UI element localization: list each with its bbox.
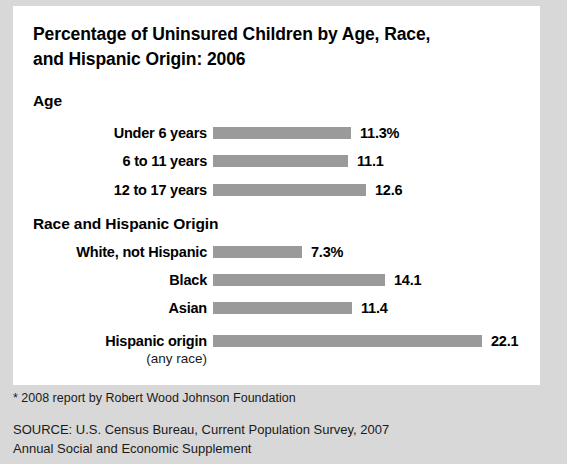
section-heading-age: Age	[33, 92, 62, 110]
footnote: * 2008 report by Robert Wood Johnson Fou…	[13, 391, 296, 405]
source-note: SOURCE: U.S. Census Bureau, Current Popu…	[13, 420, 389, 458]
bar-value-label: 12.6	[375, 179, 402, 201]
bar-value-label: 22.1	[491, 330, 518, 352]
bar-row: Hispanic origin(any race)22.1	[13, 330, 540, 352]
bar-track	[213, 127, 351, 139]
bar-fill	[213, 184, 366, 196]
bar-track	[213, 302, 352, 314]
section-heading-race: Race and Hispanic Origin	[33, 215, 218, 233]
bar-track	[213, 274, 385, 286]
bar-label: Asian	[13, 297, 207, 319]
bar-label: Black	[13, 269, 207, 291]
bar-fill	[213, 246, 302, 258]
bar-label: White, not Hispanic	[13, 241, 207, 263]
source-line-2: Annual Social and Economic Supplement	[13, 439, 389, 458]
bar-row: 12 to 17 years12.6	[13, 179, 540, 201]
bar-fill	[213, 335, 482, 347]
bar-value-label: 11.4	[361, 297, 388, 319]
bar-track	[213, 246, 302, 258]
bar-fill	[213, 302, 352, 314]
bar-track	[213, 155, 348, 167]
bar-track	[213, 335, 482, 347]
bar-row: 6 to 11 years11.1	[13, 150, 540, 172]
bar-label: Hispanic origin	[13, 330, 207, 352]
chart-title-line-2: and Hispanic Origin: 2006	[33, 47, 513, 72]
bar-row: White, not Hispanic7.3%	[13, 241, 540, 263]
bar-fill	[213, 274, 385, 286]
bar-row: Black14.1	[13, 269, 540, 291]
bar-fill	[213, 127, 351, 139]
page-title: Percentage of Uninsured Children by Age,…	[33, 22, 513, 72]
chart-panel: Percentage of Uninsured Children by Age,…	[13, 6, 540, 385]
bar-value-label: 11.3%	[360, 122, 399, 144]
bar-label: 6 to 11 years	[13, 150, 207, 172]
source-line-1: SOURCE: U.S. Census Bureau, Current Popu…	[13, 420, 389, 439]
bar-value-label: 11.1	[357, 150, 384, 172]
bar-track	[213, 184, 366, 196]
chart-title-line-1: Percentage of Uninsured Children by Age,…	[33, 22, 513, 47]
bar-value-label: 14.1	[394, 269, 421, 291]
bar-fill	[213, 155, 348, 167]
bar-row: Asian11.4	[13, 297, 540, 319]
bar-sublabel: (any race)	[13, 350, 207, 368]
bar-value-label: 7.3%	[311, 241, 343, 263]
bar-label: Under 6 years	[13, 122, 207, 144]
bar-row: Under 6 years11.3%	[13, 122, 540, 144]
bar-label: 12 to 17 years	[13, 179, 207, 201]
